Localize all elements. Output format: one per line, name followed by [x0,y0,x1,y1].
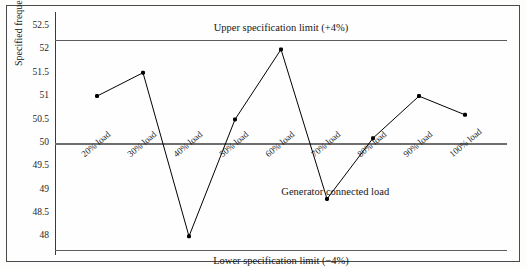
data-series-layer [55,12,507,255]
upper-specification-limit-label: Upper specification limit (+4%) [214,23,349,34]
plot-area: 52.55251.55150.55049.54948.548 20% load3… [55,12,507,255]
series-marker-group [95,47,467,238]
y-tick-label: 49.5 [32,161,49,171]
y-tick-label: 48.5 [32,208,49,218]
data-point-marker [141,71,145,75]
y-tick-label: 50.5 [32,115,49,125]
series-line-specified-frequency [97,49,465,236]
y-tick-label: 52.5 [32,21,49,31]
x-axis-title: Generator connected load [281,187,389,198]
data-point-marker [463,113,467,117]
data-point-marker [187,234,191,238]
data-point-marker [325,197,329,201]
y-tick-label: 51 [40,91,50,101]
data-point-marker [95,94,99,98]
y-tick-label: 48 [40,232,50,242]
lower-specification-limit-label: Lower specification limit (−4%) [213,256,349,267]
y-tick-label: 50 [40,138,50,148]
data-point-marker [417,94,421,98]
data-point-marker [371,136,375,140]
y-axis-title: Specified frequency (Hz) [14,50,24,66]
y-tick-label: 49 [40,185,50,195]
y-tick-label: 52 [40,45,50,55]
data-point-marker [233,117,237,121]
y-tick-label: 51.5 [32,68,49,78]
data-point-marker [279,47,283,51]
chart-figure: Specified frequency (Hz) 52.55251.55150.… [0,0,527,268]
